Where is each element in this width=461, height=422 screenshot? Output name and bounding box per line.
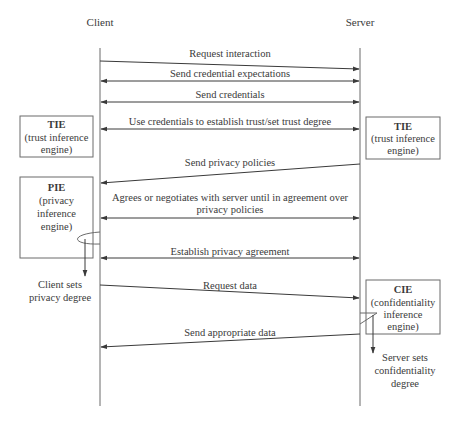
tie-client-box: TIE (trust inference engine)	[20, 116, 93, 157]
server-note-line3: degree	[391, 378, 419, 389]
tie-server-line1: (trust inference	[371, 133, 435, 145]
server-header: Server	[346, 16, 375, 28]
tie-server-line2: engine)	[387, 145, 419, 157]
message-send-credential-expectations: Send credential expectations	[101, 68, 359, 81]
pie-client-title: PIE	[48, 182, 66, 193]
message-label: Use credentials to establish trust/set t…	[129, 116, 332, 127]
message-send-privacy-policies: Send privacy policies	[101, 157, 360, 183]
client-note-line2: privacy degree	[29, 292, 91, 303]
pie-client-line2: inference	[37, 208, 76, 219]
message-request-interaction: Request interaction	[100, 48, 359, 69]
message-label: Send privacy policies	[185, 157, 275, 168]
message-send-appropriate-data: Send appropriate data	[101, 327, 360, 347]
message-negotiate-privacy-policies: Agrees or negotiates with server until i…	[101, 192, 359, 218]
tie-server-title: TIE	[394, 121, 412, 132]
tie-client-line1: (trust inference	[25, 132, 89, 144]
message-label: Send credential expectations	[170, 68, 290, 79]
sequence-diagram: Client Server TIE (trust inference engin…	[0, 0, 461, 422]
client-header: Client	[87, 16, 114, 28]
server-note-line1: Server sets	[382, 352, 428, 363]
message-label: Establish privacy agreement	[171, 246, 290, 257]
tie-client-line2: engine)	[41, 144, 73, 156]
cie-server-line1: (confidentiality	[371, 297, 436, 309]
message-request-data: Request data	[100, 280, 359, 298]
message-establish-privacy-agreement: Establish privacy agreement	[101, 246, 359, 258]
pie-client-line1: (privacy	[39, 195, 75, 207]
message-label: Send credentials	[195, 89, 264, 100]
pie-client-line3: engine)	[41, 221, 73, 233]
message-send-credentials: Send credentials	[101, 89, 359, 102]
message-establish-trust: Use credentials to establish trust/set t…	[101, 116, 359, 129]
server-note-line2: confidentiality	[374, 365, 436, 376]
pie-client-box: PIE (privacy inference engine)	[20, 177, 93, 258]
message-label: Request interaction	[189, 48, 271, 59]
cie-server-line2: inference	[383, 309, 422, 320]
message-label: Send appropriate data	[184, 327, 276, 338]
cie-server-line3: engine)	[387, 321, 419, 333]
client-note-line1: Client sets	[38, 279, 82, 290]
message-label-line2: privacy policies	[197, 204, 264, 215]
tie-client-title: TIE	[47, 119, 65, 130]
message-label: Request data	[203, 280, 257, 291]
cie-server-box: CIE (confidentiality inference engine)	[366, 280, 440, 334]
tie-server-box: TIE (trust inference engine)	[366, 117, 440, 159]
message-label: Agrees or negotiates with server until i…	[112, 192, 349, 203]
cie-server-title: CIE	[394, 284, 413, 295]
